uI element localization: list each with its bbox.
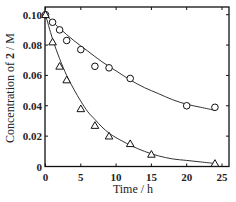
y-tick-label: 0.10 xyxy=(23,9,43,21)
x-tick-label: 25 xyxy=(217,171,229,183)
x-tick-label: 20 xyxy=(181,171,193,183)
y-tick-label: 0.08 xyxy=(23,39,43,51)
x-tick-label: 5 xyxy=(78,171,84,183)
triangle-marker xyxy=(148,151,156,158)
circle-marker xyxy=(92,63,99,70)
circle-marker xyxy=(183,102,190,109)
triangle-marker xyxy=(105,132,113,139)
circle-marker xyxy=(63,37,70,44)
circle-marker xyxy=(56,27,63,34)
x-axis-ticks: 0510152025 xyxy=(43,7,228,183)
x-tick-label: 10 xyxy=(111,171,123,183)
y-tick-label: 0.06 xyxy=(23,69,43,81)
triangle-marker xyxy=(126,140,134,147)
triangle-marker xyxy=(49,38,57,45)
triangle-marker xyxy=(63,76,71,83)
x-tick-label: 0 xyxy=(43,171,49,183)
y-axis-ticks: 00.020.040.060.080.10 xyxy=(23,9,229,173)
y-tick-label: 0 xyxy=(37,161,43,173)
x-tick-label: 15 xyxy=(146,171,158,183)
concentration-time-chart: 0510152025 00.020.040.060.080.10 Time / … xyxy=(0,0,236,202)
circles-fit-curve xyxy=(46,15,215,111)
circle-marker xyxy=(106,65,113,72)
circle-marker xyxy=(78,46,85,53)
x-axis-label: Time / h xyxy=(113,182,153,196)
circle-marker xyxy=(49,19,56,26)
circle-marker xyxy=(212,104,219,111)
y-tick-label: 0.04 xyxy=(23,100,43,112)
circle-marker xyxy=(127,75,134,82)
y-axis-label: Concentration of 2 / M xyxy=(3,33,17,143)
data-markers xyxy=(42,11,219,166)
y-tick-label: 0.02 xyxy=(23,130,43,142)
